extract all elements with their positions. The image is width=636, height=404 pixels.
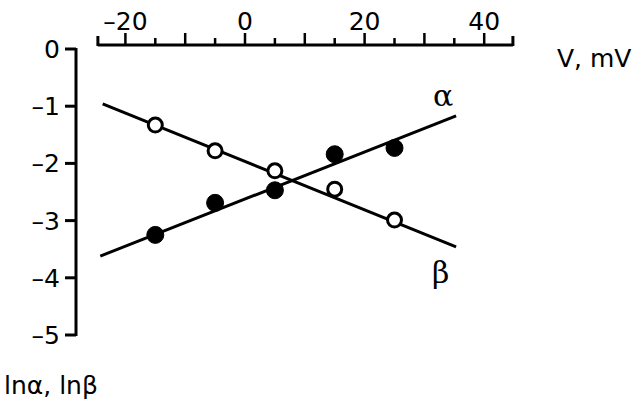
y-tick-label: –4 [32, 264, 60, 293]
filled-data-point [386, 139, 403, 156]
y-tick-label: –1 [32, 92, 60, 121]
y-axis: 0–1–2–3–4–5 [32, 35, 76, 350]
open-data-point [388, 213, 402, 227]
y-axis-title: lnα, lnβ [4, 371, 98, 400]
x-tick-label: 40 [468, 7, 500, 36]
beta-series-label: β [432, 255, 449, 290]
y-tick-label: 0 [44, 35, 60, 64]
open-data-point [268, 164, 282, 178]
chart-canvas: –2002040 0–1–2–3–4–5 V, mV lnα, lnβ α β [0, 0, 636, 404]
x-axis: –2002040 [98, 7, 513, 46]
filled-data-point [207, 194, 224, 211]
filled-data-point [326, 146, 343, 163]
open-data-point [328, 182, 342, 196]
x-tick-label: 0 [237, 7, 253, 36]
filled-data-point [266, 182, 283, 199]
filled-data-point [147, 226, 164, 243]
alpha-series-label: α [433, 78, 453, 113]
y-tick-label: –5 [32, 321, 60, 350]
open-data-point [208, 144, 222, 158]
x-tick-label: –20 [103, 7, 147, 36]
x-tick-label: 20 [349, 7, 381, 36]
y-tick-label: –3 [32, 207, 60, 236]
x-axis-title: V, mV [557, 44, 631, 73]
open-data-point [148, 118, 162, 132]
y-tick-label: –2 [32, 149, 60, 178]
